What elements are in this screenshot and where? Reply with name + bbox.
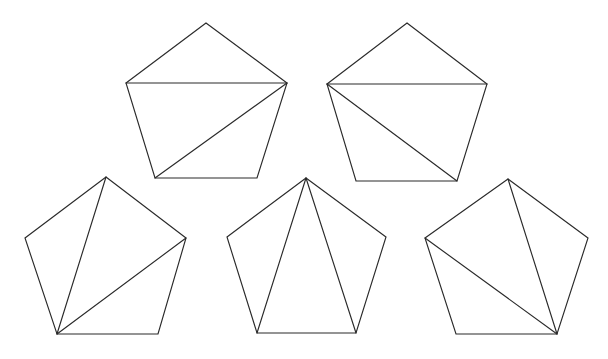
pentagon-1	[126, 23, 287, 178]
pentagon-5-outline	[425, 179, 588, 334]
pentagon-triangulation-figure	[0, 0, 608, 359]
pentagon-4	[227, 178, 386, 333]
pentagon-3	[25, 177, 186, 334]
pentagon-2	[327, 23, 487, 181]
pentagon-5	[425, 179, 588, 334]
figure-canvas	[0, 0, 608, 359]
pentagon-4-outline	[227, 178, 386, 333]
